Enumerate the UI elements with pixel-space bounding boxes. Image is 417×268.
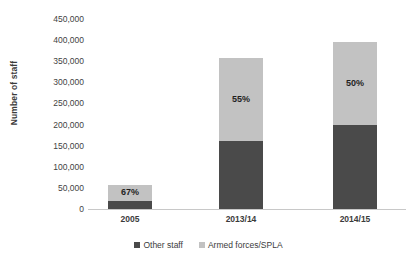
legend-swatch-dark-icon: [134, 242, 140, 248]
legend-label: Armed forces/SPLA: [208, 240, 283, 250]
y-axis-tick-label: 250,000: [24, 98, 84, 108]
bar-segment-other-staff: [219, 141, 263, 209]
y-axis-tick-label: 450,000: [24, 14, 84, 24]
stacked-bar-chart: Number of staff 450,000 400,000 350,000 …: [0, 0, 417, 268]
y-axis-tick-label: 0: [24, 204, 84, 214]
y-axis-tick-labels: 450,000 400,000 350,000 300,000 250,000 …: [24, 0, 84, 268]
plot-area: 67% 55% 50%: [88, 19, 404, 209]
y-axis-tick-label: 400,000: [24, 35, 84, 45]
bar-segment-armed-forces: 55%: [219, 58, 263, 141]
bar-segment-armed-forces: 67%: [108, 185, 152, 201]
legend-swatch-light-icon: [199, 242, 205, 248]
y-axis-tick-label: 150,000: [24, 141, 84, 151]
data-label-2005: 67%: [108, 187, 152, 198]
legend-label: Other staff: [143, 240, 183, 250]
x-axis-tick-label-2014-15: 2014/15: [310, 214, 400, 224]
y-axis-tick-label: 200,000: [24, 120, 84, 130]
y-axis-tick-label: 50,000: [24, 183, 84, 193]
y-axis-title: Number of staff: [9, 53, 19, 133]
y-axis-tick-label: 350,000: [24, 56, 84, 66]
data-label-2014-15: 50%: [333, 78, 377, 89]
x-axis-tick-label-2013-14: 2013/14: [196, 214, 286, 224]
bar-segment-other-staff: [108, 201, 152, 209]
chart-legend: Other staff Armed forces/SPLA: [0, 240, 417, 250]
legend-item-other-staff[interactable]: Other staff: [134, 240, 183, 250]
data-label-2013-14: 55%: [219, 94, 263, 105]
y-axis-tick-label: 300,000: [24, 77, 84, 87]
x-axis-tick-label-2005: 2005: [85, 214, 175, 224]
x-axis-line: [88, 209, 406, 210]
bar-segment-armed-forces: 50%: [333, 42, 377, 125]
x-axis-tick-labels: 2005 2013/14 2014/15: [88, 214, 404, 230]
bar-segment-other-staff: [333, 125, 377, 209]
legend-item-armed-forces[interactable]: Armed forces/SPLA: [199, 240, 283, 250]
y-axis-tick-label: 100,000: [24, 162, 84, 172]
